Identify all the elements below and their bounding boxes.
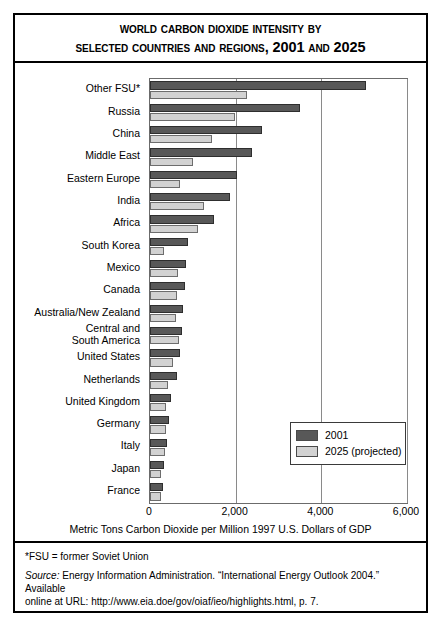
category-label: Russia xyxy=(108,106,140,118)
x-tick-label: 0 xyxy=(146,505,152,517)
title-line-2: Selected Countries and Regions, 2001 and… xyxy=(76,38,366,57)
bar-2001 xyxy=(150,215,214,223)
bar-2025 xyxy=(150,425,166,433)
bar-row xyxy=(150,324,407,346)
bar-2025 xyxy=(150,180,180,188)
category-label: Africa xyxy=(113,217,140,229)
figure-panel: World Carbon Dioxide Intensity by Select… xyxy=(13,13,428,613)
category-label: China xyxy=(113,128,140,140)
bar-row xyxy=(150,391,407,413)
category-label: United States xyxy=(77,351,140,363)
category-label: Netherlands xyxy=(83,374,140,386)
chart-title: World Carbon Dioxide Intensity by Select… xyxy=(15,15,426,63)
bar-2025 xyxy=(150,381,168,389)
bar-2025 xyxy=(150,91,247,99)
bar-2025 xyxy=(150,158,193,166)
bar-2001 xyxy=(150,148,252,156)
source-line-2: online at URL: http://www.eia.doe/gov/oi… xyxy=(25,596,319,607)
category-label: United Kingdom xyxy=(65,396,140,408)
bar-row xyxy=(150,213,407,235)
footnote-text: *FSU = former Soviet Union xyxy=(25,551,416,562)
category-label: Australia/New Zealand xyxy=(34,307,140,319)
bar-2025 xyxy=(150,314,176,322)
chart-legend: 2001 2025 (projected) xyxy=(290,422,406,465)
bar-2025 xyxy=(150,448,165,456)
bar-2025 xyxy=(150,291,177,299)
bar-2001 xyxy=(150,483,163,491)
bar-2001 xyxy=(150,349,180,357)
bar-2001 xyxy=(150,305,183,313)
bar-2001 xyxy=(150,416,169,424)
bar-row xyxy=(150,101,407,123)
category-label: South Korea xyxy=(82,240,140,252)
category-label: Middle East xyxy=(85,150,140,162)
category-label: Japan xyxy=(111,463,140,475)
category-label: India xyxy=(117,195,140,207)
category-label: Eastern Europe xyxy=(67,173,140,185)
category-label: Mexico xyxy=(107,262,140,274)
bar-2001 xyxy=(150,372,177,380)
bar-row xyxy=(150,481,407,503)
legend-label-2001: 2001 xyxy=(325,429,348,441)
x-axis-title: Metric Tons Carbon Dioxide per Million 1… xyxy=(15,523,426,535)
bar-2001 xyxy=(150,193,230,201)
bar-2001 xyxy=(150,394,171,402)
source-text: Source: Energy Information Administratio… xyxy=(25,569,416,608)
bar-row xyxy=(150,79,407,101)
category-label: Other FSU* xyxy=(86,83,140,95)
bar-2025 xyxy=(150,403,166,411)
x-tick-label: 4,000 xyxy=(307,505,333,517)
footer-notes: *FSU = former Soviet Union Source: Energ… xyxy=(15,541,426,611)
bar-2001 xyxy=(150,171,237,179)
bar-row xyxy=(150,124,407,146)
gridline xyxy=(407,79,408,503)
legend-label-2025: 2025 (projected) xyxy=(325,445,401,457)
bar-2025 xyxy=(150,247,164,255)
x-tick-label: 6,000 xyxy=(393,505,419,517)
bar-row xyxy=(150,369,407,391)
bar-row xyxy=(150,235,407,257)
source-label: Source: xyxy=(25,570,59,581)
bar-row xyxy=(150,280,407,302)
bar-2001 xyxy=(150,104,300,112)
bar-row xyxy=(150,146,407,168)
bar-2001 xyxy=(150,238,188,246)
bar-row xyxy=(150,347,407,369)
bar-row xyxy=(150,258,407,280)
bar-2001 xyxy=(150,461,164,469)
category-label: Central and South America xyxy=(72,323,140,346)
category-label: Italy xyxy=(121,440,140,452)
x-axis-ticks: 02,0004,0006,000 xyxy=(149,505,408,519)
bar-2025 xyxy=(150,492,161,500)
legend-swatch-2025 xyxy=(296,446,318,457)
bar-row xyxy=(150,191,407,213)
bar-2025 xyxy=(150,225,198,233)
title-line-1: World Carbon Dioxide Intensity by xyxy=(120,19,322,38)
legend-item: 2001 xyxy=(296,427,400,443)
bar-2025 xyxy=(150,358,173,366)
bar-row xyxy=(150,302,407,324)
legend-swatch-2001 xyxy=(296,430,318,441)
bar-2001 xyxy=(150,260,186,268)
bar-2001 xyxy=(150,327,182,335)
source-line-1: Energy Information Administration. “Inte… xyxy=(25,570,379,594)
category-label: Germany xyxy=(97,418,140,430)
bar-2025 xyxy=(150,202,204,210)
bar-2025 xyxy=(150,113,235,121)
bar-2001 xyxy=(150,81,366,89)
bar-2001 xyxy=(150,126,262,134)
bar-2025 xyxy=(150,135,212,143)
category-label: Canada xyxy=(103,284,140,296)
bar-2001 xyxy=(150,439,167,447)
bar-2001 xyxy=(150,282,185,290)
bar-2025 xyxy=(150,470,161,478)
legend-item: 2025 (projected) xyxy=(296,443,400,459)
bar-2025 xyxy=(150,336,179,344)
bar-2025 xyxy=(150,269,178,277)
bar-row xyxy=(150,168,407,190)
category-axis-labels: Other FSU*RussiaChinaMiddle EastEastern … xyxy=(15,78,145,502)
x-tick-label: 2,000 xyxy=(222,505,248,517)
category-label: France xyxy=(107,485,140,497)
